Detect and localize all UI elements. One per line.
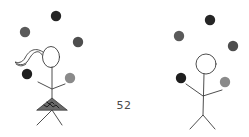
game-canvas[interactable] [0,0,249,137]
ball-icon [20,27,30,37]
legs-line [37,110,62,125]
right-juggler [186,54,222,129]
ball-icon [174,31,184,41]
head-icon [43,47,60,68]
arms-line [38,82,65,89]
body-line [203,74,204,115]
ball-icon [176,73,186,83]
juggling-balls [20,11,238,87]
ball-icon [51,11,61,21]
left-juggler [15,47,67,126]
ball-icon [220,77,230,87]
legs-line [190,115,215,129]
score-counter: 52 [113,99,135,112]
ball-icon [228,41,238,51]
ponytail-icon [15,50,43,65]
ball-icon [22,69,32,79]
head-icon [196,54,216,74]
skirt-icon [37,98,67,110]
ball-icon [205,15,215,25]
ball-icon [65,73,75,83]
ball-icon [73,37,83,47]
